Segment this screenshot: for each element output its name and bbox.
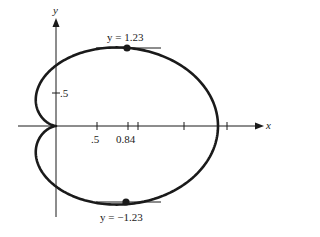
x-axis-label: x bbox=[266, 120, 271, 131]
bottom-tangent-point bbox=[122, 198, 129, 205]
y-axis-label: y bbox=[53, 5, 58, 16]
y-tick-label-0.5: .5 bbox=[60, 88, 68, 99]
y-axis-arrow-icon bbox=[53, 18, 60, 27]
top-tangent-point bbox=[123, 44, 130, 51]
x-tick-label-0.5: .5 bbox=[91, 134, 99, 145]
bottom-point-label: y = −1.23 bbox=[100, 212, 143, 223]
x-axis-arrow-icon bbox=[255, 123, 264, 130]
top-point-label: y = 1.23 bbox=[107, 32, 143, 43]
x-tick-label-0.84: 0.84 bbox=[116, 134, 135, 145]
